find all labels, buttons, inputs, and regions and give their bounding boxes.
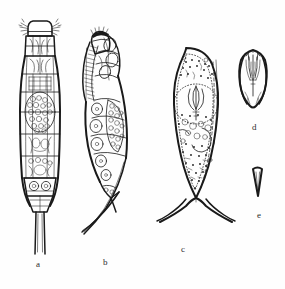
- figure-b-drawing: [82, 27, 127, 234]
- figure-c-central-organ: [188, 86, 204, 120]
- figure-label-c: c: [181, 245, 185, 254]
- figure-b-granular-mass: [106, 100, 124, 152]
- figure-c-drawing: [157, 48, 235, 222]
- figure-label-a: a: [36, 260, 40, 269]
- figure-a-granular-mass: [25, 92, 55, 133]
- figure-e-drawing: [253, 168, 262, 197]
- figure-c-lower-stipple: [185, 158, 208, 189]
- figure-label-d: d: [252, 123, 257, 132]
- figure-label-e: e: [257, 211, 261, 220]
- figure-a-drawing: [19, 19, 61, 254]
- figure-b-hatched-comb: [83, 42, 98, 102]
- figure-label-b: b: [103, 258, 108, 267]
- figure-d-drawing: [239, 50, 267, 108]
- plate-drawing-canvas: [0, 0, 285, 289]
- figure-c-upper-stipple: [180, 56, 213, 79]
- illustration-plate: a b c d e: [0, 0, 285, 289]
